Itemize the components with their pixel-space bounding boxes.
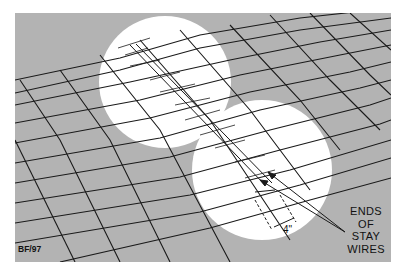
figure-code: BF/97: [18, 244, 41, 254]
callout-line: ENDS: [338, 205, 394, 218]
dimension-label: 4": [283, 224, 292, 235]
callout-ends-of-stay-wires: ENDS OF STAY WIRES: [338, 205, 394, 255]
callout-line: STAY: [338, 230, 394, 243]
highlight-circle-lower: [192, 100, 332, 240]
callout-line: WIRES: [338, 243, 394, 256]
callout-line: OF: [338, 218, 394, 231]
